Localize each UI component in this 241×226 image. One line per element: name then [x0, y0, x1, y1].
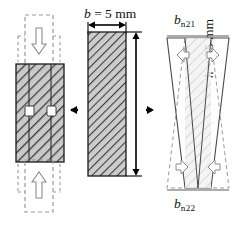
overlap-core-region	[185, 38, 211, 188]
top-width-label: bn21	[174, 13, 195, 29]
technical-figure: b = 5 mm h = 35 mm	[0, 0, 241, 226]
top-width-symbol: b	[174, 12, 181, 27]
cross-section-bar	[88, 32, 126, 176]
measurement-marker-right	[47, 106, 56, 116]
width-dimension-arrow	[88, 22, 126, 29]
left-pointing-arrow	[70, 106, 78, 114]
width-value: = 5 mm	[94, 6, 136, 21]
width-symbol: b	[84, 6, 91, 21]
panel-specimen-in-grips	[0, 0, 80, 226]
measurement-marker-left	[25, 106, 34, 116]
panel-dimensioned-section: b = 5 mm h = 35 mm	[80, 0, 155, 226]
right-pointing-arrow	[146, 106, 154, 114]
height-dimension-arrow	[133, 32, 140, 176]
grip-panel-graphics	[0, 0, 80, 226]
hatched-specimen	[16, 64, 64, 162]
dimension-panel-graphics	[80, 0, 155, 226]
deformed-panel-graphics	[155, 0, 241, 226]
panel-deformed-shape: bn21 bn22	[155, 0, 241, 226]
bottom-width-symbol: b	[174, 196, 181, 211]
bottom-width-label: bn22	[174, 197, 195, 213]
top-width-subscript: n21	[181, 19, 196, 29]
width-dimension-label: b = 5 mm	[84, 7, 136, 21]
upward-load-arrow	[32, 172, 46, 198]
bottom-width-subscript: n22	[181, 203, 196, 213]
downward-load-arrow	[32, 28, 46, 54]
